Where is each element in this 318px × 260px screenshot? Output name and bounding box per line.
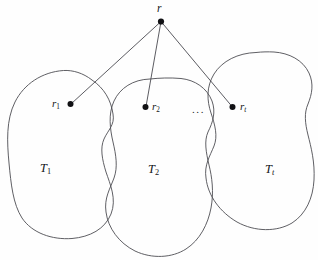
subtree-label-t1: T1 <box>40 162 51 175</box>
figure-canvas <box>0 0 318 260</box>
node-r2-dot <box>143 104 149 110</box>
subtree-region-tt <box>206 52 315 230</box>
ellipsis-label: ... <box>192 104 205 115</box>
node-root-dot <box>158 18 164 24</box>
edge-root-to-rt <box>161 22 232 107</box>
node-rt-dot <box>230 104 236 110</box>
node-r1-label: r1 <box>52 98 60 109</box>
node-r2-label: r2 <box>152 101 160 112</box>
node-r1-dot <box>68 101 74 107</box>
node-rt-label: rt <box>240 101 246 112</box>
subtree-label-t2: T2 <box>148 163 159 176</box>
edge-root-to-r1 <box>72 22 162 104</box>
subtree-region-t1 <box>8 70 114 238</box>
node-root-label: r <box>157 3 161 15</box>
edge-root-to-r2 <box>146 22 161 107</box>
tree-decomposition-figure: r r1 r2 rt ... T1 T2 Tt <box>0 0 318 260</box>
subtree-label-tt: Tt <box>265 163 274 176</box>
